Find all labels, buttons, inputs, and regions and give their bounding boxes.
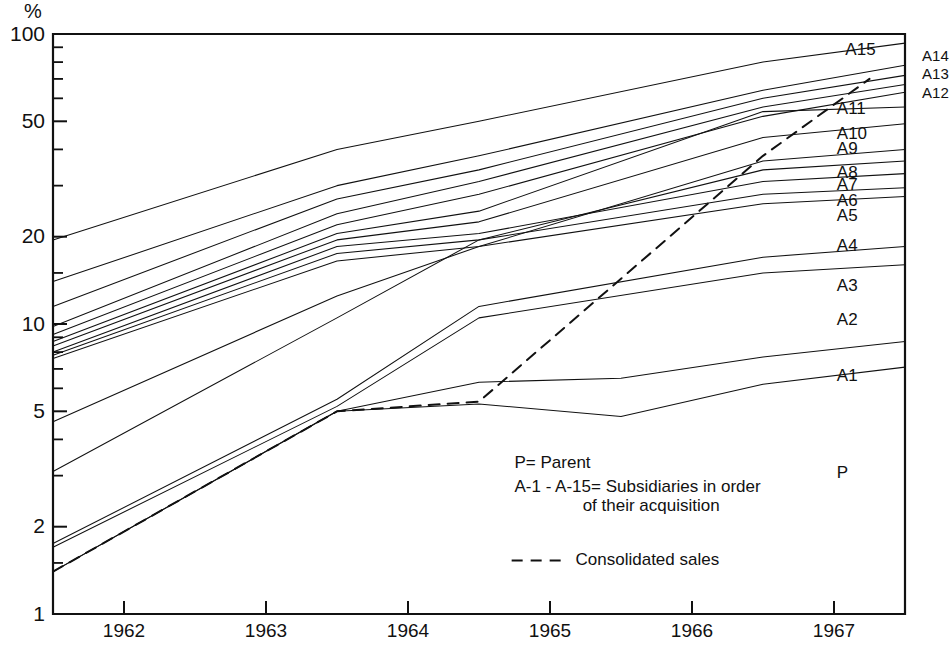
- y-axis-tick-label: 50: [22, 109, 45, 132]
- x-axis-tick-label: 1967: [813, 620, 855, 641]
- series-line-a2: [53, 265, 905, 547]
- x-axis-tick-label: 1966: [671, 620, 713, 641]
- series-label-a11: A11: [837, 99, 866, 118]
- annotation-legend-parent: P= Parent: [515, 453, 591, 472]
- y-axis-tick-label: 10: [22, 312, 45, 335]
- series-label-a15: A15: [845, 40, 875, 59]
- x-axis-group: 196219631964196519661967: [103, 601, 855, 641]
- series-label-a3: A3: [837, 276, 858, 295]
- series-line-a1: [53, 342, 905, 572]
- series-line-p: [53, 367, 905, 571]
- annotation-legend-subsidiaries-line1: A-1 - A-15= Subsidiaries in order: [515, 477, 761, 496]
- series-label-a9: A9: [837, 139, 858, 158]
- series-label-a1: A1: [837, 366, 858, 385]
- y-axis-tick-label: 100: [10, 22, 45, 45]
- series-line-a4: [53, 197, 905, 359]
- y-axis-unit-label: %: [24, 0, 42, 22]
- series-label-a14: A14: [922, 47, 949, 64]
- x-axis-tick-label: 1964: [387, 620, 430, 641]
- log-line-chart: 125102050100 196219631964196519661967 A1…: [0, 0, 951, 657]
- x-axis-tick-label: 1965: [529, 620, 571, 641]
- annotation-legend-subsidiaries-line2: of their acquisition: [583, 496, 720, 515]
- series-label-p: P: [837, 463, 848, 482]
- series-line-a9: [53, 124, 905, 346]
- y-axis-group: 125102050100: [10, 22, 67, 625]
- y-axis-tick-labels: 125102050100: [10, 22, 45, 625]
- series-label-a4: A4: [837, 236, 858, 255]
- chart-annotations: P= ParentA-1 - A-15= Subsidiaries in ord…: [512, 453, 761, 569]
- series-lines: [53, 43, 905, 571]
- chart-container: 125102050100 196219631964196519661967 A1…: [0, 0, 951, 657]
- y-axis-tick-label: 20: [22, 224, 45, 247]
- y-axis-minor-ticks: [53, 47, 63, 563]
- series-label-a12: A12: [922, 84, 949, 101]
- annotation-legend-consolidated: Consolidated sales: [576, 550, 720, 569]
- series-line-a7: [53, 161, 905, 472]
- series-line-a6: [53, 174, 905, 352]
- y-axis-tick-label: 1: [33, 602, 45, 625]
- y-axis-tick-label: 2: [33, 514, 45, 537]
- x-axis-tick-label: 1962: [103, 620, 145, 641]
- x-axis-tick-labels: 196219631964196519661967: [103, 620, 855, 641]
- series-line-a5: [53, 188, 905, 356]
- series-line-consolidated: [53, 79, 870, 572]
- series-line-a15: [53, 43, 905, 240]
- series-line-a12: [53, 84, 905, 326]
- x-axis-tick-label: 1963: [245, 620, 287, 641]
- y-axis-tick-label: 5: [33, 399, 45, 422]
- series-labels: A15A14A13A12A11A10A9A8A7A6A5A4A3A2A1P: [837, 40, 949, 482]
- x-axis-ticks: [124, 601, 834, 614]
- series-label-a13: A13: [922, 65, 949, 82]
- series-label-a5: A5: [837, 206, 858, 225]
- series-label-a2: A2: [837, 310, 858, 329]
- series-line-a14: [53, 65, 905, 281]
